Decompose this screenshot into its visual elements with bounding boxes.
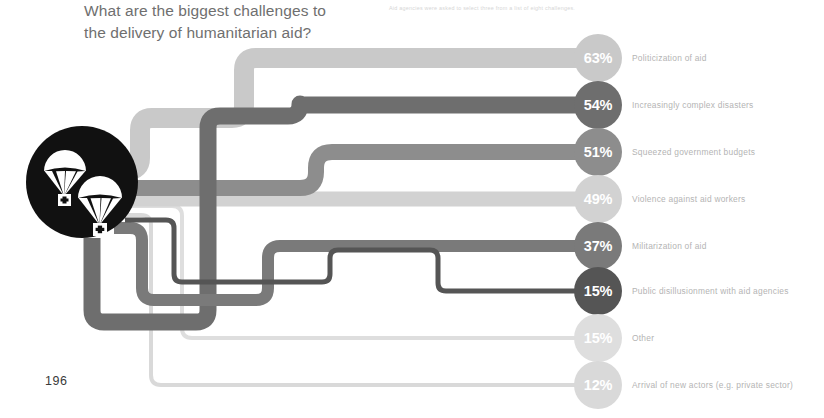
hub-circle xyxy=(26,126,138,238)
value-node[interactable]: 15% xyxy=(574,314,622,362)
value-node[interactable]: 54% xyxy=(574,81,622,129)
ribbon-public-disillusionment xyxy=(125,220,580,291)
chart-subtitle: Aid agencies were asked to select three … xyxy=(389,4,649,12)
value-percent: 49% xyxy=(584,192,612,207)
category-label: Increasingly complex disasters xyxy=(632,101,754,109)
value-node[interactable]: 63% xyxy=(574,34,622,82)
value-node[interactable]: 12% xyxy=(574,361,622,409)
category-label: Public disillusionment with aid agencies xyxy=(632,287,789,295)
value-percent: 37% xyxy=(584,239,612,254)
category-label: Violence against aid workers xyxy=(632,195,745,203)
ribbon-squeezed-government-budgets xyxy=(104,152,580,188)
value-percent: 15% xyxy=(584,284,612,299)
value-percent: 51% xyxy=(584,145,612,160)
category-label: Militarization of aid xyxy=(632,242,707,250)
value-percent: 54% xyxy=(584,98,612,113)
category-label: Squeezed government budgets xyxy=(632,148,755,156)
value-node[interactable]: 37% xyxy=(574,222,622,270)
page-number: 196 xyxy=(45,374,68,388)
parachute-aid-drop-icon xyxy=(26,126,138,238)
value-percent: 12% xyxy=(584,378,612,393)
page-title: What are the biggest challenges to the d… xyxy=(84,0,384,44)
page-title-line-1: What are the biggest challenges to xyxy=(84,0,384,22)
category-label: Politicization of aid xyxy=(632,54,707,62)
value-percent: 15% xyxy=(584,331,612,346)
category-label: Other xyxy=(632,334,654,342)
category-label: Arrival of new actors (e.g. private sect… xyxy=(632,381,793,389)
value-node[interactable]: 15% xyxy=(574,267,622,315)
value-node[interactable]: 49% xyxy=(574,175,622,223)
value-percent: 63% xyxy=(584,51,612,66)
infographic-canvas: What are the biggest challenges to the d… xyxy=(0,0,824,418)
page-title-line-2: the delivery of humanitarian aid? xyxy=(84,22,384,44)
value-node[interactable]: 51% xyxy=(574,128,622,176)
